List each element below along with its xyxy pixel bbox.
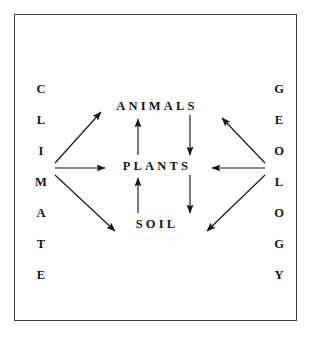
- climate-letter: T: [37, 229, 45, 260]
- geology-letter: G: [274, 229, 284, 260]
- node-soil: SOIL: [0, 218, 314, 231]
- node-plants: PLANTS: [0, 160, 314, 173]
- geology-letter: Y: [274, 260, 283, 291]
- climate-letter: E: [37, 260, 45, 291]
- node-animals: ANIMALS: [0, 100, 314, 113]
- edge-climate-animals: [55, 112, 101, 163]
- diagram-page: C L I M A T E G E O L O G Y ANIMALS PLAN…: [0, 0, 314, 338]
- edge-geology-animals: [222, 118, 265, 163]
